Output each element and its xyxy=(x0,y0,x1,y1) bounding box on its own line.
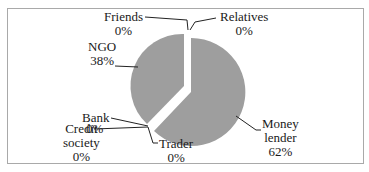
label-money-lender: Money lender 62% xyxy=(262,117,299,159)
leader-money xyxy=(236,116,261,130)
label-name: NGO xyxy=(88,40,116,54)
label-trader: Trader 0% xyxy=(159,137,193,165)
label-name: Money xyxy=(262,117,299,131)
label-pct: 0% xyxy=(220,24,268,38)
label-pct: 0% xyxy=(159,151,193,165)
label-name: Friends xyxy=(104,10,143,24)
label-name-2: society xyxy=(63,136,100,150)
label-pct: 0% xyxy=(104,24,143,38)
label-ngo: NGO 38% xyxy=(88,40,116,68)
label-pct: 38% xyxy=(88,54,116,68)
label-credit-society: Credit society 0% xyxy=(63,122,100,164)
label-name: Credit xyxy=(63,122,100,136)
leader-bank xyxy=(111,118,148,126)
label-pct: 0% xyxy=(63,150,100,164)
label-name: Trader xyxy=(159,137,193,151)
label-name-2: lender xyxy=(262,131,299,145)
leader-friends xyxy=(145,17,188,30)
label-pct: 62% xyxy=(262,145,299,159)
label-friends: Friends 0% xyxy=(104,10,143,38)
leader-relatives xyxy=(190,18,216,30)
label-relatives: Relatives 0% xyxy=(220,10,268,38)
label-name: Relatives xyxy=(220,10,268,24)
